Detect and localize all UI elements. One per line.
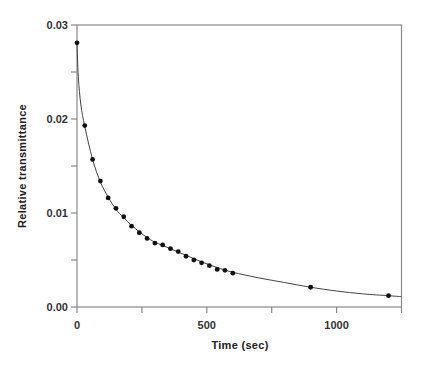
data-point (82, 123, 87, 128)
data-point (75, 40, 80, 45)
data-point (137, 230, 142, 235)
data-point (223, 268, 228, 273)
data-point (199, 260, 204, 265)
plot-frame (77, 25, 402, 307)
y-tick-label: 0.03 (47, 19, 68, 31)
y-axis-label: Relative transmittance (16, 104, 28, 228)
data-point (386, 293, 391, 298)
data-point (308, 285, 313, 290)
data-point (98, 179, 103, 184)
x-tick-label: 500 (198, 319, 216, 331)
x-tick-label: 1000 (324, 319, 348, 331)
data-point (160, 243, 165, 248)
data-point (230, 271, 235, 276)
data-point (145, 236, 150, 241)
fit-curve (77, 43, 402, 297)
data-point (191, 258, 196, 263)
data-point (129, 224, 134, 229)
data-point (114, 206, 119, 211)
y-tick-label: 0.02 (47, 113, 68, 125)
y-axis-ticks (71, 25, 77, 307)
x-tick-label: 0 (74, 319, 80, 331)
data-point (106, 196, 111, 201)
y-axis-tick-labels: 0.000.010.020.03 (47, 19, 68, 313)
data-point (207, 263, 212, 268)
data-point (90, 157, 95, 162)
data-point (176, 249, 181, 254)
data-point (121, 214, 126, 219)
data-points (75, 40, 391, 298)
chart: 05001000 0.000.010.020.03 Time (sec) Rel… (0, 0, 424, 366)
x-axis-tick-labels: 05001000 (74, 319, 349, 331)
y-tick-label: 0.00 (47, 301, 68, 313)
data-point (215, 267, 220, 272)
data-point (168, 246, 173, 251)
data-point (152, 241, 157, 246)
data-point (184, 254, 189, 259)
x-axis-ticks (77, 307, 402, 313)
y-tick-label: 0.01 (47, 207, 68, 219)
x-axis-label: Time (sec) (211, 339, 268, 351)
